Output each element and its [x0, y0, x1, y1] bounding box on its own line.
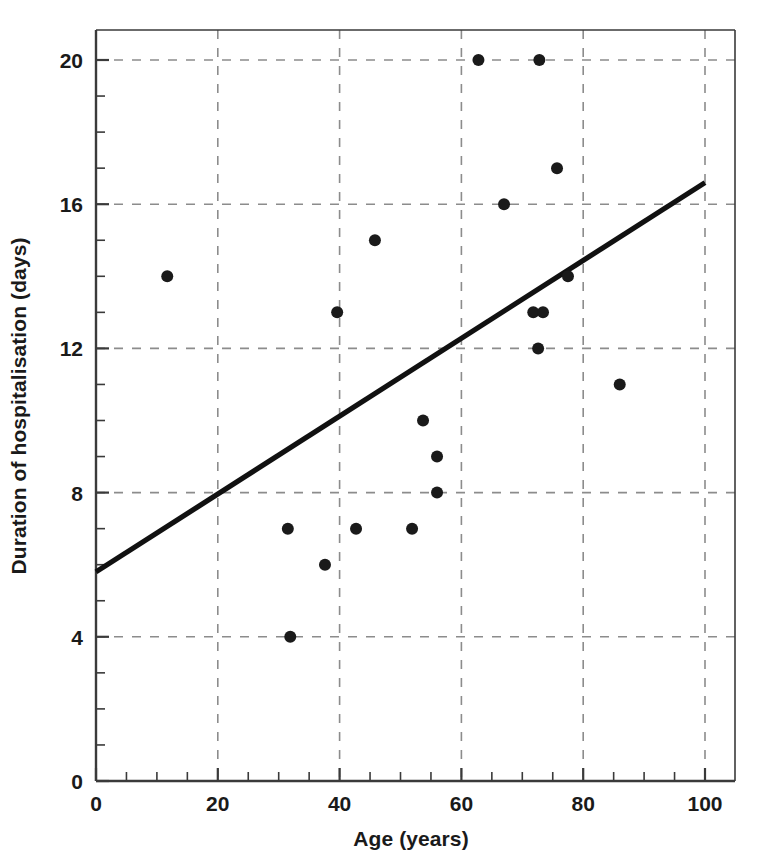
y-tick-label: 8: [71, 482, 83, 505]
data-point: [331, 306, 343, 318]
data-point: [562, 270, 574, 282]
x-tick-label: 20: [206, 792, 229, 815]
x-tick-label: 0: [90, 792, 102, 815]
x-tick-label: 60: [450, 792, 473, 815]
data-point: [431, 451, 443, 463]
x-axis-title: Age (years): [353, 827, 468, 850]
y-tick-label: 12: [60, 337, 83, 360]
data-point: [431, 487, 443, 499]
plot-area: 020406080100 048121620 Age (years) Durat…: [0, 0, 768, 862]
data-point: [369, 234, 381, 246]
data-point: [350, 523, 362, 535]
scatter-chart: 020406080100 048121620 Age (years) Durat…: [0, 0, 768, 862]
x-tick-label: 100: [687, 792, 722, 815]
y-axis-title: Duration of hospitalisation (days): [7, 237, 30, 574]
data-point: [537, 306, 549, 318]
y-tick-label: 16: [60, 193, 83, 216]
data-point: [532, 342, 544, 354]
y-tick-label: 4: [71, 626, 83, 649]
data-point: [533, 54, 545, 66]
data-point: [406, 523, 418, 535]
data-point: [498, 198, 510, 210]
data-point: [472, 54, 484, 66]
y-tick-label: 0: [71, 770, 83, 793]
x-tick-label: 80: [572, 792, 595, 815]
data-point: [551, 162, 563, 174]
y-tick-label: 20: [60, 49, 83, 72]
x-tick-label: 40: [328, 792, 351, 815]
data-point: [614, 378, 626, 390]
data-point: [284, 631, 296, 643]
data-point: [161, 270, 173, 282]
chart-background: [0, 0, 768, 862]
data-point: [282, 523, 294, 535]
data-point: [319, 559, 331, 571]
data-point: [417, 415, 429, 427]
